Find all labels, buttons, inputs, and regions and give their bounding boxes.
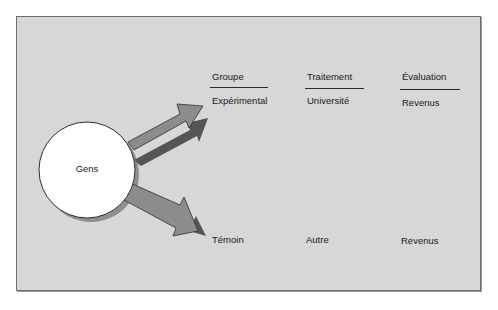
source-node-label: Gens: [62, 163, 112, 174]
cell-groupe-row1: Expérimental: [212, 95, 267, 106]
column-rule-evaluation: [400, 89, 460, 90]
column-header-groupe: Groupe: [212, 71, 244, 82]
column-rule-groupe: [210, 87, 268, 88]
column-rule-traitement: [305, 88, 364, 89]
cell-traitement-row2: Autre: [306, 234, 329, 245]
cell-evaluation-row2: Revenus: [401, 235, 439, 246]
column-header-evaluation: Évaluation: [402, 71, 446, 82]
cell-evaluation-row1: Revenus: [402, 97, 440, 108]
arrow-to-control-icon: [124, 182, 198, 236]
cell-traitement-row1: Université: [307, 95, 349, 106]
diagram-graphics: [0, 0, 498, 310]
column-header-traitement: Traitement: [307, 71, 352, 82]
cell-groupe-row2: Témoin: [212, 234, 244, 245]
